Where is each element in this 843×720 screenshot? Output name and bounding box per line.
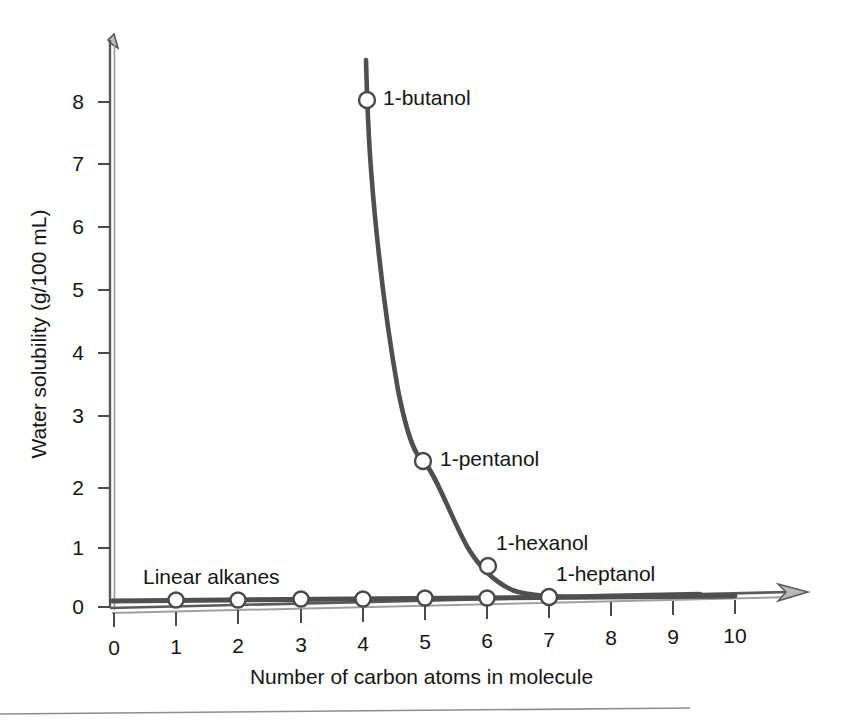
x-tick-label-0: 0	[94, 636, 134, 660]
x-tick-label-10: 10	[715, 624, 755, 648]
x-tick-label-1: 1	[156, 635, 196, 659]
y-tick-label-3: 3	[58, 404, 84, 428]
annotation-1-heptanol: 1-heptanol	[556, 562, 655, 586]
x-tick-label-8: 8	[591, 626, 631, 650]
marker-1-hexanol	[480, 558, 496, 574]
y-tick-label-1: 1	[58, 536, 84, 560]
marker-alkane-4	[356, 592, 371, 607]
marker-1-heptanol	[541, 589, 557, 605]
y-tick-label-8: 8	[58, 90, 84, 114]
y-tick-label-7: 7	[58, 152, 84, 176]
y-axis-ticks	[98, 102, 110, 607]
marker-alkane-6	[480, 591, 495, 606]
annotation-1-pentanol: 1-pentanol	[440, 447, 539, 471]
x-axis-title: Number of carbon atoms in molecule	[0, 665, 843, 689]
y-tick-label-4: 4	[58, 341, 84, 365]
x-tick-label-3: 3	[281, 633, 321, 657]
footer-divider	[0, 706, 843, 716]
y-axis-title: Water solubility (g/100 mL)	[27, 169, 51, 499]
x-tick-label-6: 6	[467, 629, 507, 653]
marker-1-pentanol	[415, 453, 431, 469]
footer-divider-line	[0, 708, 690, 714]
x-tick-label-7: 7	[529, 628, 569, 652]
y-tick-label-0: 0	[58, 595, 84, 619]
annotation-linear-alkanes: Linear alkanes	[143, 565, 280, 589]
x-tick-label-9: 9	[653, 625, 693, 649]
annotation-1-hexanol: 1-hexanol	[496, 531, 588, 555]
marker-alkane-2	[231, 593, 246, 608]
marker-alkane-3	[294, 592, 309, 607]
x-tick-label-2: 2	[218, 634, 258, 658]
x-tick-label-5: 5	[405, 630, 445, 654]
annotation-1-butanol: 1-butanol	[383, 86, 471, 110]
y-axis	[108, 34, 118, 610]
y-tick-label-6: 6	[58, 215, 84, 239]
x-tick-label-4: 4	[343, 632, 383, 656]
marker-1-butanol	[359, 92, 375, 108]
marker-alkane-5	[418, 591, 433, 606]
series-line-alcohols	[366, 60, 700, 596]
y-tick-label-5: 5	[58, 278, 84, 302]
marker-alkane-1	[169, 593, 184, 608]
y-tick-label-2: 2	[58, 476, 84, 500]
solubility-chart-figure: 8 7 6 5 4 3 2 1 0 0 1 2 3 4 5 6 7 8 9 10…	[0, 0, 843, 720]
